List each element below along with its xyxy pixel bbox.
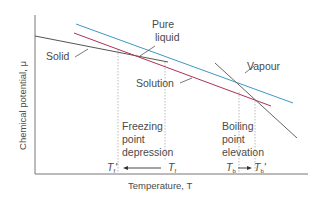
freezing-arrowhead (123, 166, 128, 170)
boiling-label-1: Boiling (222, 120, 254, 133)
pure-liquid-leader (140, 46, 155, 56)
pure-liquid-label-2: liquid (155, 31, 180, 44)
solution-label: Solution (136, 77, 174, 90)
freezing-label-1: Freezing (122, 120, 163, 133)
vapour-label: Vapour (247, 60, 280, 73)
solution-leader (180, 78, 192, 83)
x-axis-label: Temperature, T (128, 180, 192, 191)
tb-label: Tb (226, 161, 236, 178)
solid-label: Solid (46, 50, 69, 63)
y-axis-label: Chemical potential, μ (17, 46, 28, 166)
tf-label: Tf (168, 161, 176, 178)
boiling-arrowhead (247, 166, 252, 170)
solid-leader (75, 49, 88, 57)
freezing-label-2: point (122, 133, 145, 146)
pure-liquid-label-1: Pure (152, 18, 174, 31)
boiling-label-3: elevation (222, 146, 264, 159)
freezing-label-3: depression (122, 146, 173, 159)
tf-prime-label: Tf' (107, 161, 117, 178)
tb-prime-label: Tb' (254, 161, 266, 178)
boiling-label-2: point (222, 133, 245, 146)
